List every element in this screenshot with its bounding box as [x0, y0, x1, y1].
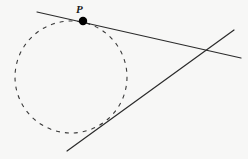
figure-background: [0, 0, 248, 159]
tangency-point-p: [79, 17, 87, 25]
geometry-figure: P: [0, 0, 248, 159]
figure-canvas: [0, 0, 248, 159]
point-label-p: P: [76, 4, 83, 15]
